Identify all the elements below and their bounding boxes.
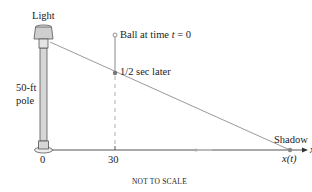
motion-dot xyxy=(195,149,198,152)
shadow-marker xyxy=(288,148,292,152)
ball-start-text: Ball at time xyxy=(120,29,172,40)
axis-arrow-icon xyxy=(302,148,308,153)
not-to-scale-note: NOT TO SCALE xyxy=(132,178,187,186)
axis-variable-label: x xyxy=(310,145,312,155)
shadow-position-label: x(t) xyxy=(282,154,297,165)
ball-start-value: = 0 xyxy=(175,29,191,40)
shadow-label: Shadow xyxy=(274,135,308,146)
ball-half-sec-marker xyxy=(113,71,117,75)
ball-start-label: Ball at time t = 0 xyxy=(120,30,191,41)
half-sec-label: 1/2 sec later xyxy=(120,67,171,78)
light-ray xyxy=(50,42,290,150)
tick-0-label: 0 xyxy=(40,155,45,166)
tick-30-label: 30 xyxy=(108,155,119,166)
pole-base-icon xyxy=(35,141,53,153)
ball-start-marker xyxy=(113,33,117,37)
pole-label-line2: pole xyxy=(16,96,34,107)
light-label: Light xyxy=(32,11,55,22)
pole-label-line1: 50-ft xyxy=(16,83,36,94)
pole xyxy=(40,48,47,141)
lamp-icon xyxy=(34,25,53,48)
